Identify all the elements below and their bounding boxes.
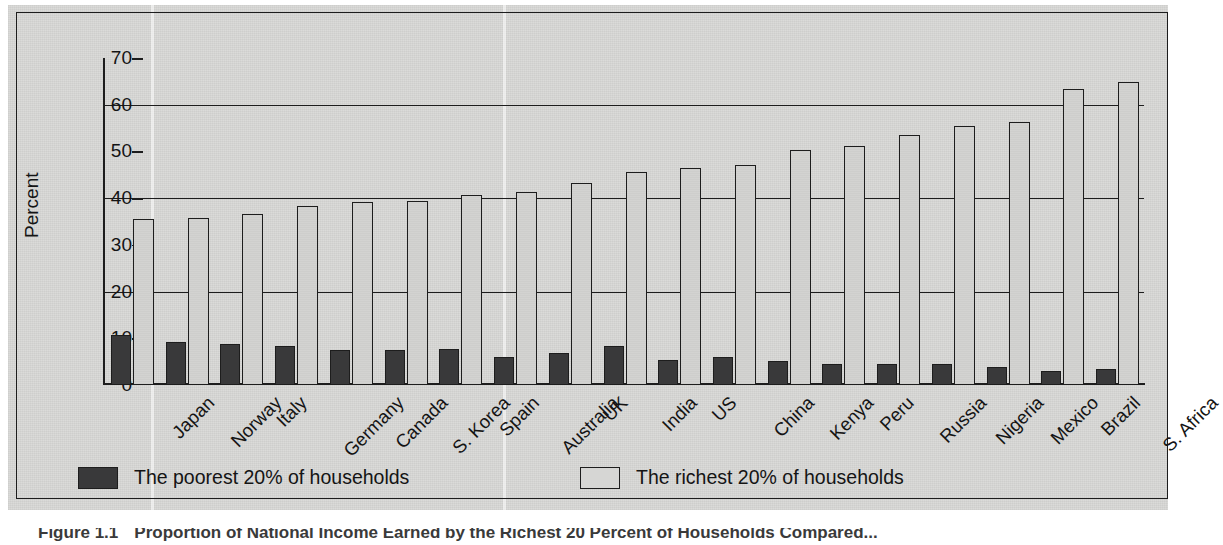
bar-group bbox=[385, 58, 428, 385]
bar-richest[interactable] bbox=[133, 219, 154, 385]
bar-poorest[interactable] bbox=[1041, 371, 1061, 385]
bar-poorest[interactable] bbox=[987, 367, 1007, 385]
bar-poorest[interactable] bbox=[330, 350, 350, 386]
bar-poorest[interactable] bbox=[385, 350, 405, 386]
bar-poorest[interactable] bbox=[877, 364, 897, 385]
bar-group bbox=[220, 58, 263, 385]
bar-poorest[interactable] bbox=[439, 349, 459, 385]
bar-richest[interactable] bbox=[571, 183, 592, 385]
bar-poorest[interactable] bbox=[822, 364, 842, 385]
bar-poorest[interactable] bbox=[768, 361, 788, 385]
bar-richest[interactable] bbox=[899, 135, 920, 385]
bar-group bbox=[604, 58, 647, 385]
legend-swatch-poor bbox=[78, 467, 118, 489]
legend-item-poor[interactable]: The poorest 20% of households bbox=[78, 466, 409, 489]
bar-group bbox=[877, 58, 920, 385]
bar-group bbox=[987, 58, 1030, 385]
bar-poorest[interactable] bbox=[604, 346, 624, 385]
bar-richest[interactable] bbox=[516, 192, 537, 385]
bar-richest[interactable] bbox=[626, 172, 647, 385]
plot-area: 010203040506070 bbox=[104, 58, 1144, 385]
bar-poorest[interactable] bbox=[166, 342, 186, 385]
bar-richest[interactable] bbox=[352, 202, 373, 385]
bar-richest[interactable] bbox=[735, 165, 756, 385]
bar-group bbox=[713, 58, 756, 385]
bar-richest[interactable] bbox=[188, 218, 209, 385]
bar-richest[interactable] bbox=[242, 214, 263, 385]
bar-richest[interactable] bbox=[680, 168, 701, 385]
legend-label: The poorest 20% of households bbox=[134, 466, 409, 489]
bar-poorest[interactable] bbox=[549, 353, 569, 385]
bar-richest[interactable] bbox=[1009, 122, 1030, 385]
figure-caption: Figure 1.1Proportion of National Income … bbox=[38, 528, 878, 543]
figure-caption-number: Figure 1.1 bbox=[38, 528, 118, 542]
bar-group bbox=[658, 58, 701, 385]
bar-group bbox=[1041, 58, 1084, 385]
bar-poorest[interactable] bbox=[713, 357, 733, 385]
legend-label: The richest 20% of households bbox=[636, 466, 904, 489]
bar-group bbox=[822, 58, 865, 385]
bar-poorest[interactable] bbox=[220, 344, 240, 385]
y-axis-title: Percent bbox=[21, 173, 43, 238]
bar-poorest[interactable] bbox=[1096, 369, 1116, 385]
bar-richest[interactable] bbox=[297, 206, 318, 385]
bar-group bbox=[932, 58, 975, 385]
bar-group bbox=[439, 58, 482, 385]
legend-item-rich[interactable]: The richest 20% of households bbox=[580, 466, 904, 489]
bar-poorest[interactable] bbox=[932, 364, 952, 385]
bar-richest[interactable] bbox=[461, 195, 482, 385]
bar-poorest[interactable] bbox=[275, 346, 295, 385]
figure-caption-text: Proportion of National Income Earned by … bbox=[134, 528, 877, 542]
bar-richest[interactable] bbox=[844, 146, 865, 385]
bar-poorest[interactable] bbox=[111, 335, 131, 385]
bar-richest[interactable] bbox=[1118, 82, 1139, 385]
bar-group bbox=[275, 58, 318, 385]
bar-group bbox=[494, 58, 537, 385]
bar-group bbox=[166, 58, 209, 385]
bar-poorest[interactable] bbox=[658, 360, 678, 385]
bar-richest[interactable] bbox=[407, 201, 428, 385]
legend-swatch-rich bbox=[580, 467, 620, 489]
bar-group bbox=[549, 58, 592, 385]
bar-richest[interactable] bbox=[1063, 89, 1084, 385]
bar-richest[interactable] bbox=[790, 150, 811, 385]
bar-group bbox=[111, 58, 154, 385]
figure-caption-clip: Figure 1.1Proportion of National Income … bbox=[0, 528, 1187, 545]
bar-group bbox=[768, 58, 811, 385]
bar-group bbox=[330, 58, 373, 385]
bar-poorest[interactable] bbox=[494, 357, 514, 385]
bar-group bbox=[1096, 58, 1139, 385]
bar-richest[interactable] bbox=[954, 126, 975, 385]
